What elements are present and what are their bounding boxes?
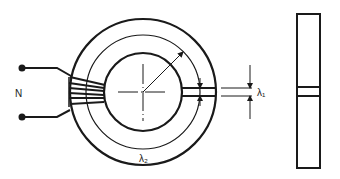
label-gap-length: λ₁ (257, 87, 266, 98)
toroid-diagram: N λ₁ λ₂ (0, 0, 340, 179)
coil-winding (20, 66, 106, 120)
lead-wire-top (22, 68, 71, 76)
toroid-side-view (297, 14, 320, 168)
terminal-top (20, 66, 25, 71)
toroid-front-view (70, 19, 252, 165)
label-turns: N (15, 88, 22, 99)
side-upper-section (297, 14, 320, 87)
lead-wire-bottom (22, 110, 70, 117)
label-core-path-length: λ₂ (139, 153, 148, 164)
side-lower-section (297, 96, 320, 168)
terminal-bottom (20, 115, 25, 120)
